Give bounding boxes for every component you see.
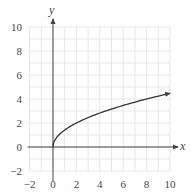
x-tick-label: 8	[144, 178, 150, 190]
tick-labels: −20246810−20246810	[10, 21, 176, 190]
y-tick-label: 2	[17, 117, 23, 129]
x-tick-label: 6	[120, 178, 126, 190]
y-tick-label: 8	[17, 45, 23, 57]
x-tick-label: −2	[24, 178, 36, 190]
y-tick-label: 6	[17, 69, 23, 81]
x-tick-label: 4	[97, 178, 103, 190]
y-tick-label: 4	[17, 93, 23, 105]
chart: −20246810−20246810 x y	[0, 0, 191, 196]
x-tick-label: 0	[50, 178, 56, 190]
axes	[28, 19, 178, 181]
x-tick-label: 2	[74, 178, 80, 190]
y-tick-label: 0	[17, 141, 23, 153]
y-axis-label: y	[48, 3, 55, 17]
x-tick-label: 10	[165, 178, 177, 190]
y-tick-label: 10	[11, 21, 23, 33]
y-tick-label: −2	[10, 165, 22, 177]
x-axis-label: x	[179, 139, 186, 153]
